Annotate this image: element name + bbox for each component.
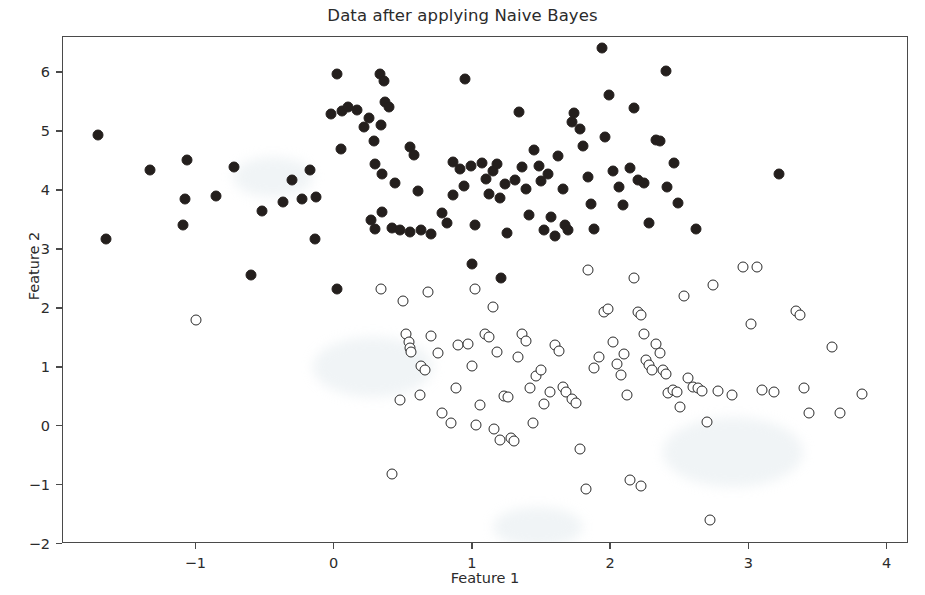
data-point xyxy=(514,107,525,118)
data-point xyxy=(616,370,627,381)
y-tick-label: 2 xyxy=(41,300,50,316)
paper-smudge xyxy=(493,507,583,543)
data-point xyxy=(387,468,398,479)
data-point xyxy=(508,435,519,446)
x-tick: 2 xyxy=(609,543,610,549)
y-tick: −2 xyxy=(56,543,62,544)
data-point xyxy=(179,193,190,204)
data-point xyxy=(406,346,417,357)
data-point xyxy=(377,207,388,218)
data-point xyxy=(646,364,657,375)
data-point xyxy=(297,193,308,204)
data-point xyxy=(543,168,554,179)
data-point xyxy=(395,395,406,406)
data-point xyxy=(660,66,671,77)
data-point xyxy=(450,382,461,393)
data-point xyxy=(583,171,594,182)
data-point xyxy=(638,178,649,189)
data-point xyxy=(432,347,443,358)
data-point xyxy=(489,424,500,435)
x-tick-label: 0 xyxy=(329,555,338,571)
data-point xyxy=(746,318,757,329)
y-tick: 3 xyxy=(56,248,62,249)
data-point xyxy=(378,75,389,86)
data-point xyxy=(794,310,805,321)
data-point xyxy=(525,382,536,393)
data-point xyxy=(389,178,400,189)
data-point xyxy=(554,346,565,357)
y-tick: 1 xyxy=(56,366,62,367)
data-point xyxy=(577,141,588,152)
data-point xyxy=(287,175,298,186)
y-tick-label: 3 xyxy=(41,241,50,257)
data-point xyxy=(483,332,494,343)
x-tick-label: −1 xyxy=(185,555,206,571)
data-point xyxy=(475,399,486,410)
data-point xyxy=(442,217,453,228)
data-point xyxy=(562,224,573,235)
data-point xyxy=(608,337,619,348)
data-point xyxy=(774,168,785,179)
y-tick: 0 xyxy=(56,425,62,426)
data-point xyxy=(834,408,845,419)
data-point xyxy=(335,144,346,155)
data-point xyxy=(602,304,613,315)
data-point xyxy=(826,342,837,353)
data-point xyxy=(503,392,514,403)
data-point xyxy=(704,515,715,526)
data-point xyxy=(469,220,480,231)
data-point xyxy=(655,347,666,358)
data-point xyxy=(384,102,395,113)
data-point xyxy=(305,165,316,176)
data-point xyxy=(857,388,868,399)
x-tick: 1 xyxy=(471,543,472,549)
data-point xyxy=(669,158,680,169)
data-point xyxy=(804,408,815,419)
data-point xyxy=(420,364,431,375)
data-point xyxy=(583,264,594,275)
data-point xyxy=(465,161,476,172)
x-tick: −1 xyxy=(195,543,196,549)
data-point xyxy=(425,330,436,341)
data-point xyxy=(145,165,156,176)
data-point xyxy=(608,166,619,177)
data-point xyxy=(352,104,363,115)
y-tick: −1 xyxy=(56,484,62,485)
data-point xyxy=(521,335,532,346)
data-point xyxy=(529,144,540,155)
x-axis-label: Feature 1 xyxy=(62,570,908,586)
data-point xyxy=(447,190,458,201)
data-point xyxy=(409,149,420,160)
data-point xyxy=(178,220,189,231)
y-tick: 6 xyxy=(56,71,62,72)
data-point xyxy=(550,231,561,242)
data-point xyxy=(363,113,374,124)
data-point xyxy=(182,155,193,166)
y-tick: 4 xyxy=(56,189,62,190)
data-point xyxy=(558,183,569,194)
data-point xyxy=(467,360,478,371)
data-point xyxy=(702,416,713,427)
data-point xyxy=(492,159,503,170)
data-point xyxy=(599,132,610,143)
data-point xyxy=(660,369,671,380)
data-point xyxy=(671,386,682,397)
data-point xyxy=(619,348,630,359)
x-tick-label: 3 xyxy=(744,555,753,571)
data-point xyxy=(467,258,478,269)
data-point xyxy=(575,444,586,455)
data-point xyxy=(460,73,471,84)
data-point xyxy=(588,363,599,374)
paper-smudge xyxy=(233,157,313,197)
data-point xyxy=(516,162,527,173)
data-point xyxy=(257,205,268,216)
data-point xyxy=(422,286,433,297)
data-point xyxy=(398,295,409,306)
data-point xyxy=(370,224,381,235)
y-tick-label: −1 xyxy=(29,477,50,493)
data-point xyxy=(471,419,482,430)
x-tick-label: 4 xyxy=(882,555,891,571)
data-point xyxy=(635,481,646,492)
chart-title: Data after applying Naive Bayes xyxy=(0,6,925,25)
data-point xyxy=(644,218,655,229)
